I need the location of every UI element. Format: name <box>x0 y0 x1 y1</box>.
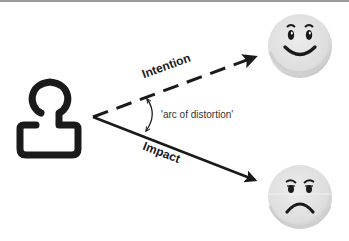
sad-face-icon <box>268 165 332 229</box>
distortion-arc <box>146 99 152 131</box>
person-outline-icon <box>20 82 78 155</box>
happy-face-icon <box>268 14 332 78</box>
distortion-diagram <box>0 0 349 241</box>
arc-of-distortion-label: 'arc of distortion' <box>161 109 233 120</box>
impact-arrow <box>93 117 255 180</box>
